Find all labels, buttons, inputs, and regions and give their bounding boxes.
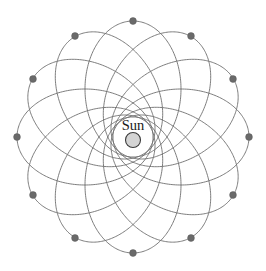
aphelion-marker-icon: [230, 192, 237, 199]
sun-body-icon: [126, 133, 141, 148]
aphelion-marker-icon: [30, 76, 37, 83]
aphelion-marker-icon: [246, 134, 253, 141]
aphelion-marker-icon: [30, 192, 37, 199]
aphelion-marker-icon: [188, 235, 195, 242]
orbit-canvas: Sun: [0, 0, 266, 271]
aphelion-marker-icon: [188, 33, 195, 40]
aphelion-marker-icon: [130, 18, 137, 25]
aphelion-marker-icon: [14, 134, 21, 141]
aphelion-marker-icon: [230, 76, 237, 83]
sun-label: Sun: [122, 117, 145, 133]
orbit-diagram: Sun: [0, 0, 266, 271]
aphelion-marker-icon: [72, 235, 79, 242]
aphelion-marker-icon: [72, 33, 79, 40]
aphelion-marker-icon: [130, 250, 137, 257]
